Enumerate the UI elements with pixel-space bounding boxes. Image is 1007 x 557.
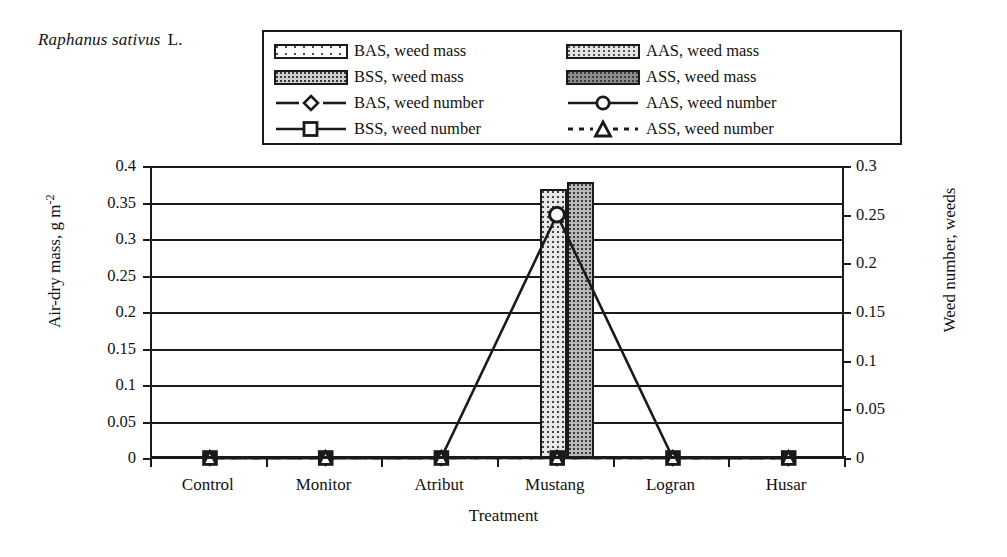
legend-item-ass-weed-number: ASS, weed number <box>566 116 896 142</box>
y-axis-label-right: 0.05 <box>856 401 926 418</box>
y-axis-label-left: 0.1 <box>76 377 136 394</box>
y2-tick-0.25 <box>844 215 851 217</box>
y-axis-label-left: 0.15 <box>76 341 136 358</box>
y-tick-0.3 <box>143 239 150 241</box>
y-axis-label-right: 0.15 <box>856 304 926 321</box>
solid-square-line-icon <box>274 119 348 139</box>
y-tick-0.05 <box>143 422 150 424</box>
y-axis-label-left: 0.4 <box>76 158 136 175</box>
species-caption: Raphanus sativusL. <box>38 30 183 50</box>
legend-item-aas-weed-mass: AAS, weed mass <box>566 38 896 64</box>
legend-label: BAS, weed mass <box>354 43 466 60</box>
species-name: Raphanus sativus <box>38 30 161 49</box>
y-axis-label-left: 0 <box>76 450 136 467</box>
legend-label: ASS, weed mass <box>646 69 756 86</box>
chart-page: Raphanus sativusL. BAS, weed mass AAS, w… <box>0 0 1007 557</box>
solid-circle-line-icon <box>566 93 640 113</box>
x-tick-boundary <box>844 456 846 467</box>
y-axis-label-right: 0.3 <box>856 158 926 175</box>
dashed-diamond-line-icon <box>274 93 348 113</box>
x-category-label: Control <box>150 476 266 493</box>
y-axis-label-right: 0.1 <box>856 353 926 370</box>
legend-item-aas-weed-number: AAS, weed number <box>566 90 896 116</box>
dotted-triangle-line-icon <box>566 119 640 139</box>
y-tick-0 <box>143 458 150 460</box>
y2-tick-0.15 <box>844 312 851 314</box>
x-tick-boundary <box>613 456 615 467</box>
aas-peak-marker <box>550 207 565 222</box>
y-axis-label-right: 0.25 <box>856 207 926 224</box>
ass-mass-swatch-icon <box>566 70 640 85</box>
legend-item-bss-weed-number: BSS, weed number <box>274 116 566 142</box>
aas-mass-swatch-icon <box>566 44 640 59</box>
x-tick-boundary <box>150 456 152 467</box>
x-tick-boundary <box>497 456 499 467</box>
y-axis-label-right: 0 <box>856 450 926 467</box>
y-tick-0.2 <box>143 312 150 314</box>
x-category-label: Monitor <box>266 476 382 493</box>
x-category-label: Logran <box>613 476 729 493</box>
y-axis-title-right: Weed number, weeds <box>940 110 960 410</box>
legend-item-bas-weed-mass: BAS, weed mass <box>274 38 566 64</box>
y-tick-0.4 <box>143 166 150 168</box>
y-axis-label-left: 0.2 <box>76 304 136 321</box>
y-axis-label-left: 0.05 <box>76 414 136 431</box>
chart-legend: BAS, weed mass AAS, weed mass BSS, weed … <box>262 30 902 145</box>
legend-item-bas-weed-number: BAS, weed number <box>274 90 566 116</box>
x-axis-title: Treatment <box>0 506 1007 526</box>
x-tick-boundary <box>266 456 268 467</box>
y-axis-label-right: 0.2 <box>856 255 926 272</box>
y2-tick-0.05 <box>844 409 851 411</box>
y-axis-title-left-exponent: -2 <box>43 194 57 204</box>
y2-tick-0.3 <box>844 166 851 168</box>
y2-tick-0.1 <box>844 361 851 363</box>
x-category-label: Atribut <box>381 476 497 493</box>
legend-label: BSS, weed number <box>354 121 481 138</box>
x-category-label: Mustang <box>497 476 613 493</box>
y-axis-label-left: 0.3 <box>76 231 136 248</box>
y-axis-label-left: 0.25 <box>76 268 136 285</box>
y-tick-0.15 <box>143 349 150 351</box>
y-tick-0.1 <box>143 385 150 387</box>
x-tick-boundary <box>728 456 730 467</box>
line-series-layer <box>152 166 846 458</box>
y-tick-0.35 <box>143 203 150 205</box>
bss-mass-swatch-icon <box>274 70 348 85</box>
legend-label: AAS, weed number <box>646 95 777 112</box>
y2-tick-0.2 <box>844 263 851 265</box>
bas-mass-swatch-icon <box>274 44 348 59</box>
x-tick-boundary <box>381 456 383 467</box>
species-authority: L. <box>168 30 183 49</box>
aas-weed-number-line <box>210 215 789 458</box>
plot-area <box>150 166 844 458</box>
legend-label: ASS, weed number <box>646 121 774 138</box>
legend-label: BSS, weed mass <box>354 69 464 86</box>
legend-label: BAS, weed number <box>354 95 484 112</box>
legend-item-bss-weed-mass: BSS, weed mass <box>274 64 566 90</box>
legend-grid: BAS, weed mass AAS, weed mass BSS, weed … <box>274 38 896 142</box>
y-axis-title-left: Air-dry mass, g m-2 <box>43 111 65 411</box>
legend-label: AAS, weed mass <box>646 43 759 60</box>
legend-item-ass-weed-mass: ASS, weed mass <box>566 64 896 90</box>
y-tick-0.25 <box>143 276 150 278</box>
y-axis-label-left: 0.35 <box>76 195 136 212</box>
x-category-label: Husar <box>728 476 844 493</box>
